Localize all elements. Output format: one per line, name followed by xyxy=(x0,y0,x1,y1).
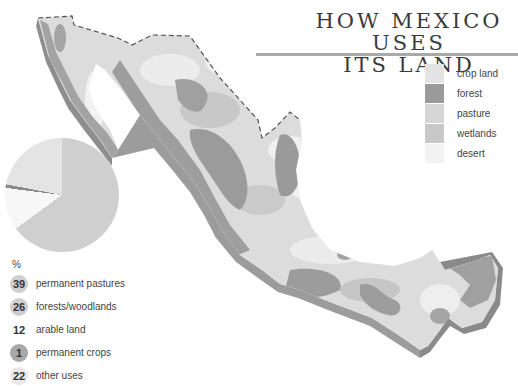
title-line-1: HOW MEXICO USES xyxy=(314,10,504,54)
stat-row-arable-land: 12 arable land xyxy=(10,318,125,341)
legend-swatch xyxy=(425,84,444,103)
title-divider xyxy=(256,53,518,56)
legend-item-pasture: pasture xyxy=(425,103,498,123)
legend-label: wetlands xyxy=(457,128,496,139)
legend-label: desert xyxy=(457,148,485,159)
legend-item-crop-land: crop land xyxy=(425,63,498,83)
stat-value-badge: 26 xyxy=(10,298,28,316)
stat-row-forests-woodlands: 26 forests/woodlands xyxy=(10,295,125,318)
stat-row-permanent-crops: 1 permanent crops xyxy=(10,341,125,364)
stat-label: permanent crops xyxy=(36,347,111,358)
legend-swatch xyxy=(425,104,444,123)
legend-item-desert: desert xyxy=(425,143,498,163)
percent-unit-label: % xyxy=(12,259,21,270)
legend-swatch xyxy=(425,144,444,163)
stat-label: other uses xyxy=(36,370,83,381)
legend-swatch xyxy=(425,124,444,143)
stat-value-badge: 1 xyxy=(10,344,28,362)
legend-label: crop land xyxy=(457,68,498,79)
stat-label: forests/woodlands xyxy=(36,301,117,312)
stat-row-permanent-pastures: 39 permanent pastures xyxy=(10,272,125,295)
legend-item-forest: forest xyxy=(425,83,498,103)
stat-label: arable land xyxy=(36,324,85,335)
land-use-pie-chart xyxy=(5,138,119,252)
legend-label: forest xyxy=(457,88,482,99)
stat-value-badge: 22 xyxy=(10,367,28,385)
stat-row-other-uses: 22 other uses xyxy=(10,364,125,387)
land-use-stats-list: 39 permanent pastures 26 forests/woodlan… xyxy=(10,272,125,387)
stat-value-badge: 12 xyxy=(10,321,28,339)
stat-value-badge: 39 xyxy=(10,275,28,293)
legend-swatch xyxy=(425,64,444,83)
legend-label: pasture xyxy=(457,108,490,119)
stat-label: permanent pastures xyxy=(36,278,125,289)
legend-item-wetlands: wetlands xyxy=(425,123,498,143)
map-legend: crop land forest pasture wetlands desert xyxy=(425,63,498,163)
